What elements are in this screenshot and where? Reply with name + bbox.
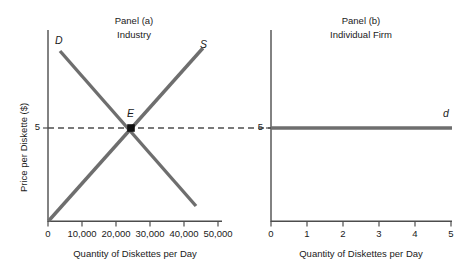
- supply-curve-industry: [49, 48, 204, 221]
- panel-b-title: Panel (b) Individual Firm: [306, 14, 416, 42]
- firm-demand-curve-label-d: d: [443, 107, 449, 119]
- panel-b-title-line2: Individual Firm: [306, 28, 416, 42]
- panel-a-x-ticks: [48, 221, 218, 226]
- panel-b-x-tick-label-0: 0: [261, 228, 281, 239]
- panel-a-x-tick-label-50000: 50,000: [196, 228, 240, 239]
- panel-a-y-axis-title: Price per Diskette ($): [18, 103, 29, 192]
- panel-a-title: Panel (a) Industry: [84, 14, 184, 42]
- panel-b-title-line1: Panel (b): [342, 15, 381, 26]
- panel-a-title-line2: Industry: [84, 28, 184, 42]
- panel-b-x-tick-label-4: 4: [405, 228, 425, 239]
- panel-b-x-ticks: [271, 221, 451, 226]
- supply-curve-label-S: S: [200, 38, 207, 50]
- panel-b-y-tick-label-5: 5: [249, 121, 263, 132]
- panel-b-x-tick-label-3: 3: [369, 228, 389, 239]
- figure-container: Panel (a) Industry Price per Diskette ($…: [0, 0, 464, 269]
- panel-b-x-tick-label-1: 1: [297, 228, 317, 239]
- panel-a-x-tick-label-0: 0: [38, 228, 58, 239]
- panel-a-title-line1: Panel (a): [115, 15, 154, 26]
- panel-b-x-axis-title: Quantity of Diskettes per Day: [276, 248, 446, 259]
- panel-b-x-tick-label-2: 2: [333, 228, 353, 239]
- demand-curve-label-D: D: [55, 34, 63, 46]
- panel-a-x-axis-title: Quantity of Diskettes per Day: [50, 248, 220, 259]
- equilibrium-label-E: E: [127, 107, 134, 119]
- panel-b-x-tick-label-5: 5: [441, 228, 461, 239]
- equilibrium-point-marker: [127, 124, 135, 132]
- panel-a-y-tick-label-5: 5: [26, 121, 40, 132]
